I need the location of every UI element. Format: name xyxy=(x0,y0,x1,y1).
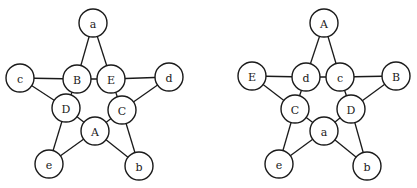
node-label: c xyxy=(337,72,343,85)
node-label: b xyxy=(363,161,370,174)
graph-node: e xyxy=(265,150,293,178)
graph-node: d xyxy=(155,63,183,91)
graph-node: B xyxy=(382,62,410,90)
node-label: d xyxy=(165,72,172,85)
node-label: E xyxy=(248,71,256,84)
graph-node: E xyxy=(238,62,266,90)
node-label: a xyxy=(321,126,328,139)
node-label: B xyxy=(392,71,400,84)
graph-node: c xyxy=(6,64,34,92)
graph-node: E xyxy=(97,65,125,93)
node-label: E xyxy=(107,74,115,87)
graph-node: A xyxy=(310,9,338,37)
node-label: b xyxy=(135,161,142,174)
node-label: d xyxy=(302,72,309,85)
node-label: e xyxy=(46,159,53,172)
pentagram-graphs-figure: aBEcdDCAeb AdcEBCDaeb xyxy=(0,0,417,188)
node-label: D xyxy=(347,104,356,117)
graph-node: B xyxy=(63,65,91,93)
node-label: C xyxy=(291,104,299,117)
left-pentagram-graph: aBEcdDCAeb xyxy=(6,9,183,180)
node-label: e xyxy=(276,159,283,172)
node-label: B xyxy=(73,74,81,87)
graph-node: b xyxy=(353,152,381,180)
graph-node: D xyxy=(52,94,80,122)
graph-node: A xyxy=(81,117,109,145)
graph-node: C xyxy=(108,96,136,124)
node-label: A xyxy=(90,126,100,139)
graph-node: a xyxy=(79,9,107,37)
node-label: D xyxy=(62,103,71,116)
graph-node: a xyxy=(310,117,338,145)
graph-node: b xyxy=(125,152,153,180)
graph-node: d xyxy=(292,63,320,91)
graph-node: C xyxy=(281,95,309,123)
node-label: A xyxy=(319,18,329,31)
node-label: c xyxy=(17,73,23,86)
left-graph-nodes: aBEcdDCAeb xyxy=(6,9,183,180)
graph-node: e xyxy=(35,150,63,178)
node-label: a xyxy=(90,18,97,31)
right-graph-nodes: AdcEBCDaeb xyxy=(238,9,410,180)
node-label: C xyxy=(118,105,126,118)
graph-node: c xyxy=(326,63,354,91)
graph-node: D xyxy=(337,95,365,123)
right-pentagram-graph: AdcEBCDaeb xyxy=(238,9,410,180)
